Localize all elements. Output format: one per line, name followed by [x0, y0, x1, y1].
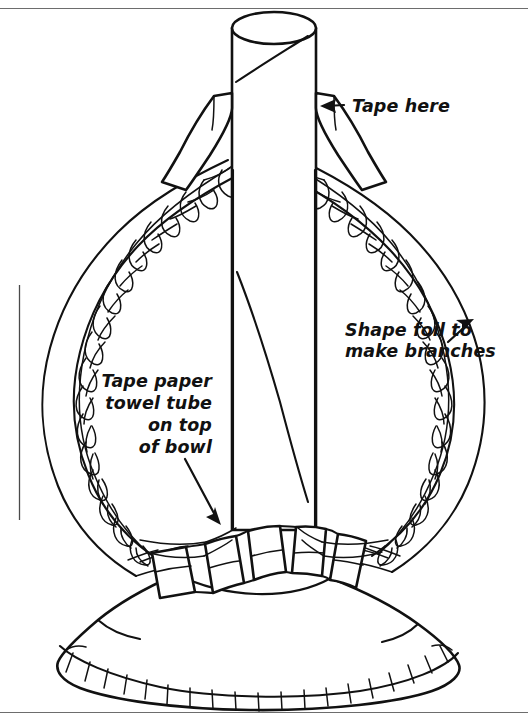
foil-left-texture — [76, 166, 238, 566]
annotation-tape-tube-line4: of bowl — [139, 437, 213, 457]
annotation-shape-foil-line2: make branches — [345, 341, 496, 361]
annotation-tape-tube-arrow-shaft — [185, 459, 216, 517]
tape-strip-base-4 — [292, 527, 326, 576]
paper-towel-tube — [232, 12, 316, 530]
foil-left-inner — [74, 176, 236, 558]
annotation-tape-tube: Tape paper towel tube on top of bowl — [101, 371, 221, 525]
tube-body — [232, 28, 316, 530]
bowl-outline — [57, 575, 459, 710]
annotation-tape-tube-line3: on top — [148, 415, 212, 435]
craft-instruction-figure: Tape here Shape foil to make branches Ta… — [0, 0, 528, 724]
tape-strip-base-5 — [330, 534, 366, 588]
bowl — [57, 574, 459, 711]
tape-strip-upper-left — [162, 93, 232, 190]
annotation-tape-tube-line1: Tape paper — [101, 371, 213, 391]
foil-left-outer — [42, 160, 228, 576]
annotation-shape-foil: Shape foil to make branches — [345, 319, 496, 361]
annotation-tape-tube-line2: towel tube — [105, 393, 212, 413]
diagram-page: Tape here Shape foil to make branches Ta… — [0, 0, 528, 724]
annotation-tape-tube-arrow-head — [206, 507, 221, 525]
annotation-tape-here-label: Tape here — [352, 96, 450, 116]
foil-right-outer — [300, 160, 484, 572]
